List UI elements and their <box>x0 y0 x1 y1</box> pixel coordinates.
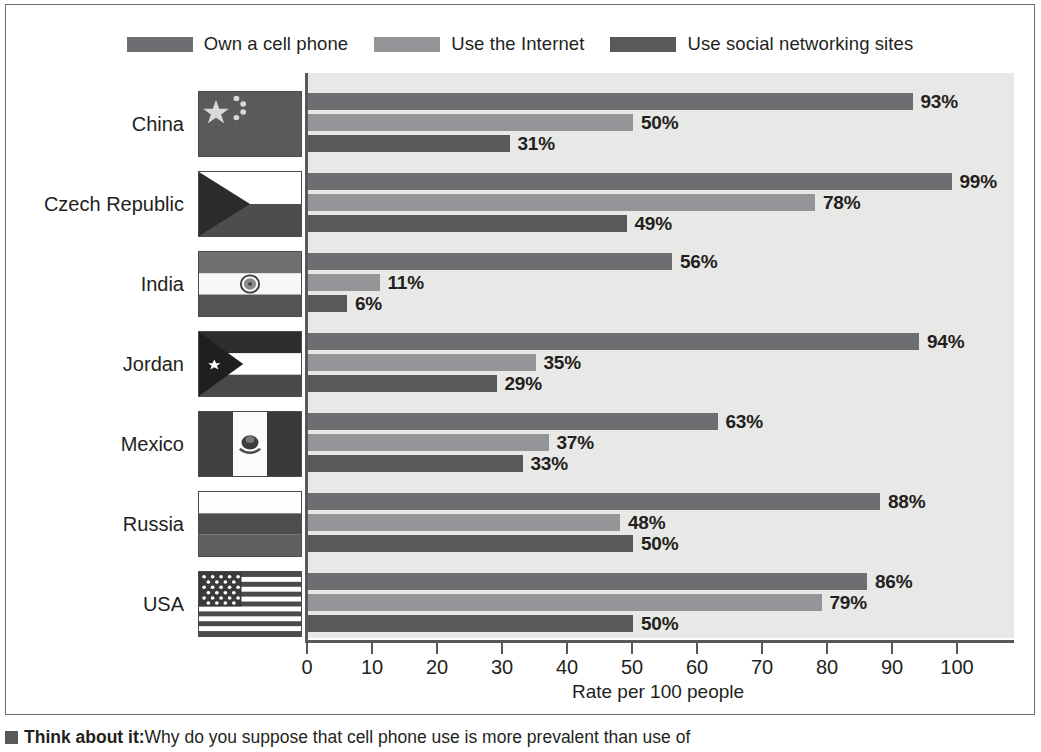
bar-value-label: 50% <box>641 612 678 634</box>
bar-value-label: 86% <box>875 570 912 592</box>
country-row-usa: USA <box>6 571 302 637</box>
x-tick-label: 10 <box>361 656 383 679</box>
bar[interactable] <box>308 354 536 371</box>
flag-mexico-icon <box>198 411 302 477</box>
chart-legend: Own a cell phone Use the Internet Use so… <box>6 29 1034 59</box>
bar-row: 78% <box>308 194 958 211</box>
x-tick-label: 0 <box>301 656 312 679</box>
caption-rest: Why do you suppose that cell phone use i… <box>145 727 691 747</box>
bar-row: 48% <box>308 514 958 531</box>
bar-row: 33% <box>308 455 958 472</box>
x-tick-label: 20 <box>426 656 448 679</box>
bar-value-label: 29% <box>505 372 542 394</box>
country-row-russia: Russia <box>6 491 302 557</box>
flag-china-icon <box>198 91 302 157</box>
bar-row: 50% <box>308 615 958 632</box>
x-tick-label: 50 <box>621 656 643 679</box>
bar-value-label: 78% <box>823 191 860 213</box>
bar-value-label: 99% <box>960 170 997 192</box>
flag-czech-republic-icon <box>198 171 302 237</box>
legend-item-label: Use social networking sites <box>687 33 913 55</box>
country-label: China <box>132 113 184 136</box>
chart-figure: Own a cell phone Use the Internet Use so… <box>5 4 1035 715</box>
bar[interactable] <box>308 375 497 392</box>
bar-value-label: 49% <box>635 212 672 234</box>
bar[interactable] <box>308 295 347 312</box>
bar-value-label: 11% <box>388 271 424 293</box>
x-tick-label: 80 <box>816 656 838 679</box>
caption-bullet-icon <box>5 731 18 744</box>
bar[interactable] <box>308 93 913 110</box>
bar-row: 35% <box>308 354 958 371</box>
bar[interactable] <box>308 493 880 510</box>
caption-block: Think about it:Why do you suppose that c… <box>5 726 1035 752</box>
x-tick-label: 30 <box>491 656 513 679</box>
bar[interactable] <box>308 135 510 152</box>
x-tick <box>436 643 438 654</box>
legend-swatch-icon <box>127 37 193 52</box>
country-label: India <box>141 273 184 296</box>
x-tick <box>696 643 698 654</box>
bar-row: 50% <box>308 535 958 552</box>
x-tick <box>566 643 568 654</box>
legend-item-use-the-internet[interactable]: Use the Internet <box>374 33 584 55</box>
bar[interactable] <box>308 215 627 232</box>
bar[interactable] <box>308 194 815 211</box>
bar-value-label: 6% <box>355 292 382 314</box>
bar-value-label: 48% <box>628 511 665 533</box>
bar-value-label: 93% <box>921 90 958 112</box>
legend-item-label: Use the Internet <box>451 33 584 55</box>
x-axis-title: Rate per 100 people <box>302 681 1014 703</box>
bar[interactable] <box>308 253 672 270</box>
x-tick-label: 70 <box>751 656 773 679</box>
bar-value-label: 56% <box>680 250 717 272</box>
country-row-mexico: Mexico <box>6 411 302 477</box>
bar-value-label: 37% <box>557 431 594 453</box>
bar-row: 88% <box>308 493 958 510</box>
x-tick <box>761 643 763 654</box>
x-tick-label: 100 <box>940 656 973 679</box>
bar-value-label: 94% <box>927 330 964 352</box>
bar[interactable] <box>308 434 549 451</box>
x-axis: 0102030405060708090100 <box>302 640 1014 641</box>
country-label: Russia <box>123 513 184 536</box>
x-axis-line <box>305 640 1014 643</box>
bar-value-label: 50% <box>641 111 678 133</box>
bar[interactable] <box>308 333 919 350</box>
bar[interactable] <box>308 455 523 472</box>
country-label: Jordan <box>123 353 184 376</box>
bar[interactable] <box>308 573 867 590</box>
bar-value-label: 79% <box>830 591 867 613</box>
bar-row: 29% <box>308 375 958 392</box>
legend-swatch-icon <box>374 37 440 52</box>
bar-value-label: 33% <box>531 452 568 474</box>
country-row-czech-republic: Czech Republic <box>6 171 302 237</box>
bar[interactable] <box>308 173 952 190</box>
legend-item-label: Own a cell phone <box>204 33 349 55</box>
country-label: USA <box>143 593 184 616</box>
plot-area: 93%50%31%99%78%49%56%11%6%94%35%29%63%37… <box>302 73 1014 640</box>
bar-row: 31% <box>308 135 958 152</box>
x-tick-label: 40 <box>556 656 578 679</box>
bar[interactable] <box>308 413 718 430</box>
x-tick <box>826 643 828 654</box>
bar-row: 50% <box>308 114 958 131</box>
bar-row: 56% <box>308 253 958 270</box>
bar-row: 86% <box>308 573 958 590</box>
bar[interactable] <box>308 594 822 611</box>
bar-row: 49% <box>308 215 958 232</box>
bar[interactable] <box>308 274 380 291</box>
x-tick <box>306 643 308 654</box>
legend-item-own-a-cell-phone[interactable]: Own a cell phone <box>127 33 349 55</box>
bar-value-label: 88% <box>888 490 925 512</box>
bar[interactable] <box>308 514 620 531</box>
bar-row: 6% <box>308 295 958 312</box>
bar-row: 94% <box>308 333 958 350</box>
caption-lead: Think about it: <box>24 727 145 747</box>
bar[interactable] <box>308 535 633 552</box>
bar-row: 11% <box>308 274 958 291</box>
legend-item-use-social-networking-sites[interactable]: Use social networking sites <box>610 33 913 55</box>
bar[interactable] <box>308 615 633 632</box>
x-tick-label: 60 <box>686 656 708 679</box>
bar[interactable] <box>308 114 633 131</box>
